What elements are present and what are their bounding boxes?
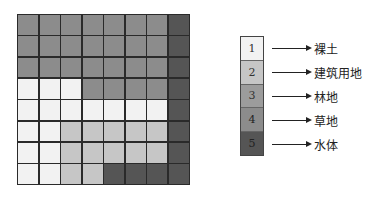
grid-cell-class-4 bbox=[104, 58, 124, 78]
grid-cell-class-1 bbox=[40, 143, 60, 163]
grid-cell-class-4 bbox=[147, 79, 167, 99]
grid-cell-class-4 bbox=[40, 15, 60, 35]
grid-cell-class-1 bbox=[18, 164, 38, 184]
grid-cell-class-2 bbox=[83, 164, 103, 184]
grid-cell-class-5 bbox=[169, 143, 189, 163]
grid-cell-class-4 bbox=[104, 15, 124, 35]
grid-cell-class-1 bbox=[18, 100, 38, 120]
legend-swatch-3: 3 bbox=[241, 85, 263, 109]
grid-cell-class-4 bbox=[126, 58, 146, 78]
grid-cell-class-4 bbox=[40, 36, 60, 56]
arrow-right-icon bbox=[272, 96, 310, 97]
grid-cell-class-1 bbox=[61, 100, 81, 120]
legend-color-bar: 1 2 3 4 5 bbox=[240, 36, 264, 156]
grid-cell-class-2 bbox=[104, 122, 124, 142]
land-use-grid bbox=[17, 14, 190, 185]
grid-cell-class-2 bbox=[104, 143, 124, 163]
grid-cell-class-5 bbox=[169, 15, 189, 35]
grid-cell-class-5 bbox=[147, 164, 167, 184]
grid-cell-class-2 bbox=[83, 122, 103, 142]
grid-cell-class-2 bbox=[147, 143, 167, 163]
grid-cell-class-4 bbox=[83, 36, 103, 56]
grid-cell-class-4 bbox=[61, 58, 81, 78]
grid-cell-class-1 bbox=[18, 143, 38, 163]
grid-cell-class-5 bbox=[169, 36, 189, 56]
grid-cell-class-5 bbox=[104, 164, 124, 184]
grid-cell-class-1 bbox=[40, 100, 60, 120]
grid-cell-class-1 bbox=[40, 122, 60, 142]
legend-label: 建筑用地 bbox=[314, 64, 362, 81]
arrow-right-icon bbox=[272, 72, 310, 73]
grid-cell-class-1 bbox=[83, 100, 103, 120]
grid-cell-class-4 bbox=[61, 36, 81, 56]
grid-cell-class-4 bbox=[147, 58, 167, 78]
grid-cell-class-4 bbox=[83, 15, 103, 35]
grid-cell-class-2 bbox=[147, 122, 167, 142]
grid-cell-class-4 bbox=[40, 58, 60, 78]
grid-cell-class-4 bbox=[126, 36, 146, 56]
grid-cell-class-4 bbox=[126, 79, 146, 99]
legend-swatch-5: 5 bbox=[241, 132, 263, 155]
grid-cell-class-1 bbox=[18, 122, 38, 142]
grid-cell-class-1 bbox=[40, 164, 60, 184]
legend-row-3: 林地 bbox=[272, 84, 338, 108]
grid-cell-class-5 bbox=[169, 58, 189, 78]
grid-cell-class-1 bbox=[61, 79, 81, 99]
grid-cell-class-2 bbox=[61, 164, 81, 184]
grid-cell-class-2 bbox=[126, 143, 146, 163]
grid-cell-class-4 bbox=[104, 36, 124, 56]
legend-swatch-2: 2 bbox=[241, 61, 263, 85]
grid-cell-class-5 bbox=[169, 100, 189, 120]
grid-cell-class-5 bbox=[169, 164, 189, 184]
legend-row-5: 水体 bbox=[272, 132, 338, 156]
legend-row-2: 建筑用地 bbox=[272, 60, 362, 84]
grid-cell-class-1 bbox=[18, 79, 38, 99]
grid-cell-class-4 bbox=[126, 15, 146, 35]
grid-cell-class-4 bbox=[104, 79, 124, 99]
grid-cell-class-2 bbox=[83, 143, 103, 163]
legend-label: 裸土 bbox=[314, 40, 338, 57]
arrow-right-icon bbox=[272, 144, 310, 145]
legend-label: 林地 bbox=[314, 88, 338, 105]
legend-swatch-1: 1 bbox=[241, 37, 263, 61]
grid-cell-class-1 bbox=[40, 79, 60, 99]
grid-cell-class-4 bbox=[147, 36, 167, 56]
grid-cell-class-2 bbox=[61, 122, 81, 142]
grid-cell-class-4 bbox=[83, 79, 103, 99]
grid-cell-class-4 bbox=[18, 36, 38, 56]
legend-row-4: 草地 bbox=[272, 108, 338, 132]
legend-row-1: 裸土 bbox=[272, 36, 338, 60]
arrow-right-icon bbox=[272, 48, 310, 49]
grid-cell-class-1 bbox=[147, 100, 167, 120]
legend-label: 草地 bbox=[314, 112, 338, 129]
grid-cell-class-1 bbox=[104, 100, 124, 120]
grid-cell-class-5 bbox=[169, 122, 189, 142]
grid-cell-class-2 bbox=[61, 143, 81, 163]
arrow-right-icon bbox=[272, 120, 310, 121]
grid-cell-class-4 bbox=[147, 15, 167, 35]
grid-cell-class-5 bbox=[126, 164, 146, 184]
grid-cell-class-4 bbox=[83, 58, 103, 78]
grid-cell-class-5 bbox=[169, 79, 189, 99]
grid-cell-class-1 bbox=[126, 100, 146, 120]
grid-cell-class-4 bbox=[61, 15, 81, 35]
grid-cell-class-4 bbox=[18, 58, 38, 78]
legend-label: 水体 bbox=[314, 136, 338, 153]
legend-swatch-4: 4 bbox=[241, 108, 263, 132]
grid-cell-class-4 bbox=[18, 15, 38, 35]
grid-cell-class-2 bbox=[126, 122, 146, 142]
